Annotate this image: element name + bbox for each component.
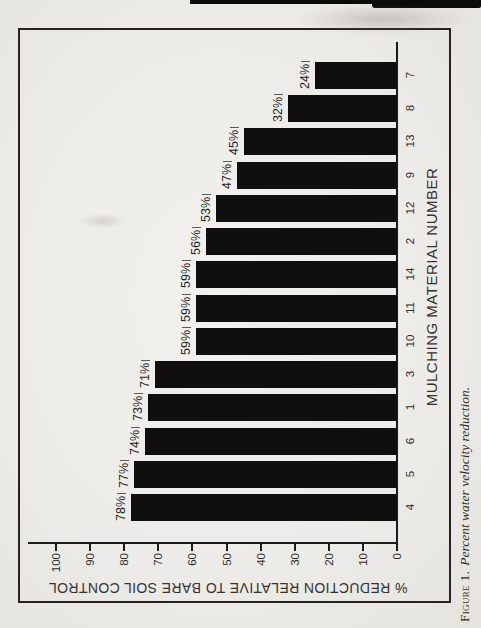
category-label: 7 bbox=[404, 60, 416, 90]
category-label: 3 bbox=[404, 359, 416, 389]
category-label: 13 bbox=[404, 126, 416, 156]
y-tick-label: 30 bbox=[288, 553, 302, 592]
scanned-page: % REDUCTION RELATIVE TO BARE SOIL CONTRO… bbox=[0, 0, 481, 628]
bar-value-label: 71% bbox=[138, 351, 153, 397]
y-tick-label: 100 bbox=[49, 553, 63, 592]
y-tick-mark bbox=[89, 543, 91, 551]
bar-material-11 bbox=[196, 295, 397, 322]
category-label: 11 bbox=[404, 293, 416, 323]
y-tick-label: 60 bbox=[185, 553, 199, 592]
x-axis-title: MULCHING MATERIAL NUMBER bbox=[423, 137, 440, 437]
y-tick-mark bbox=[123, 543, 125, 551]
y-tick-mark bbox=[226, 543, 228, 551]
y-tick-label: 10 bbox=[356, 553, 370, 592]
bar-material-8 bbox=[288, 95, 397, 122]
y-tick-mark bbox=[157, 543, 159, 551]
category-label: 14 bbox=[404, 259, 416, 289]
bar-material-2 bbox=[206, 228, 397, 255]
caption-label: Figure 1. bbox=[457, 571, 472, 622]
bar-material-13 bbox=[244, 128, 397, 155]
y-tick-mark bbox=[260, 543, 262, 551]
y-tick-label: 20 bbox=[322, 553, 336, 592]
caption-text: Percent water velocity reduction. bbox=[457, 387, 472, 566]
category-label: 12 bbox=[404, 193, 416, 223]
bar-material-10 bbox=[196, 328, 397, 355]
bar-material-5 bbox=[134, 461, 397, 488]
y-tick-label: 80 bbox=[117, 553, 131, 592]
category-label: 8 bbox=[404, 93, 416, 123]
y-tick-mark bbox=[328, 543, 330, 551]
category-label: 2 bbox=[404, 226, 416, 256]
bar-material-1 bbox=[148, 394, 397, 421]
bar-material-3 bbox=[155, 361, 397, 388]
bar-material-6 bbox=[145, 428, 397, 455]
y-tick-mark bbox=[55, 543, 57, 551]
bar-value-label: 32% bbox=[271, 85, 286, 131]
bar-value-label: 53% bbox=[199, 185, 214, 231]
y-axis-line bbox=[28, 542, 398, 544]
bar-value-label: 45% bbox=[227, 118, 242, 164]
figure-caption: Figure 1.Percent water velocity reductio… bbox=[457, 387, 473, 622]
figure-sheet: % REDUCTION RELATIVE TO BARE SOIL CONTRO… bbox=[0, 0, 481, 628]
category-label: 5 bbox=[404, 459, 416, 489]
bar-material-7 bbox=[315, 62, 397, 89]
y-tick-label: 40 bbox=[254, 553, 268, 592]
bar-material-9 bbox=[237, 162, 397, 189]
bar-material-4 bbox=[131, 494, 397, 521]
category-label: 6 bbox=[404, 426, 416, 456]
y-tick-label: 90 bbox=[83, 553, 97, 592]
bar-material-12 bbox=[216, 195, 397, 222]
category-label: 9 bbox=[404, 160, 416, 190]
category-label: 10 bbox=[404, 326, 416, 356]
chart-layer: % REDUCTION RELATIVE TO BARE SOIL CONTRO… bbox=[0, 0, 481, 628]
scan-edge-artifact bbox=[372, 0, 481, 8]
y-tick-label: 70 bbox=[151, 553, 165, 592]
y-tick-label: 50 bbox=[220, 553, 234, 592]
bar-material-14 bbox=[196, 261, 397, 288]
y-tick-mark bbox=[191, 543, 193, 551]
category-label: 1 bbox=[404, 392, 416, 422]
y-tick-mark bbox=[294, 543, 296, 551]
y-tick-mark bbox=[362, 543, 364, 551]
category-label: 4 bbox=[404, 492, 416, 522]
y-tick-label: 0 bbox=[390, 553, 404, 592]
bar-value-label: 24% bbox=[298, 52, 313, 98]
y-tick-mark bbox=[396, 543, 398, 551]
